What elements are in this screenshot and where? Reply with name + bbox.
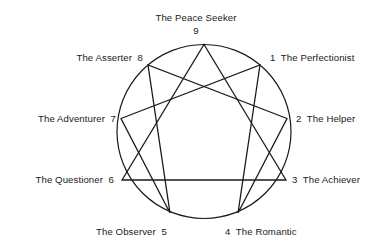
enneagram-figure — [0, 0, 392, 251]
point-number-4: 4 — [225, 226, 230, 237]
point-number-3: 3 — [292, 174, 297, 185]
point-number-2: 2 — [296, 113, 301, 124]
point-name-3: The Achiever — [303, 174, 360, 185]
point-label-4: 4 The Romantic — [225, 226, 297, 237]
point-name-6: The Questioner — [36, 174, 104, 185]
point-number-6: 6 — [109, 174, 114, 185]
hexad-1-4-2-8-5-7 — [121, 65, 287, 213]
point-number-5: 5 — [161, 226, 166, 237]
enneagram-circle — [117, 45, 291, 219]
point-name-2: The Helper — [307, 113, 355, 124]
point-label-3: 3 The Achiever — [292, 174, 360, 185]
point-name-5: The Observer — [96, 226, 156, 237]
enneagram-diagram: The Peace Seeker 9 1 The Perfectionist 2… — [0, 0, 392, 251]
point-label-6: The Questioner 6 — [2, 174, 114, 185]
point-number-9: 9 — [0, 25, 392, 36]
point-name-4: The Romantic — [236, 226, 297, 237]
point-name-7: The Adventurer — [38, 113, 105, 124]
point-label-9: The Peace Seeker 9 — [0, 12, 392, 36]
point-number-8: 8 — [138, 52, 143, 63]
point-label-8: The Asserter 8 — [10, 52, 143, 63]
point-number-7: 7 — [111, 113, 116, 124]
point-name-8: The Asserter — [76, 52, 132, 63]
point-label-5: The Observer 5 — [96, 226, 167, 237]
point-label-2: 2 The Helper — [296, 113, 355, 124]
triangle-9-3-6 — [122, 45, 286, 181]
point-label-1: 1 The Perfectionist — [270, 52, 354, 63]
point-number-1: 1 — [270, 52, 275, 63]
point-name-1: The Perfectionist — [281, 52, 355, 63]
point-label-7: The Adventurer 7 — [2, 113, 116, 124]
point-name-9: The Peace Seeker — [0, 12, 392, 23]
